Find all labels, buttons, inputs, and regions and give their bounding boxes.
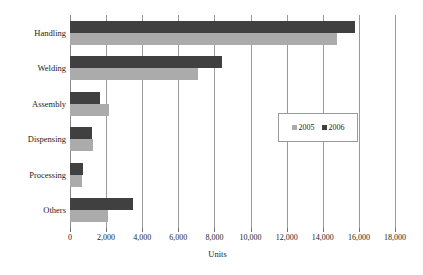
x-tick-label: 18,000 bbox=[384, 233, 406, 243]
bar-group bbox=[70, 163, 395, 187]
category-axis-labels: HandlingWeldingAssemblyDispensingProcess… bbox=[0, 15, 66, 228]
category-label-others: Others bbox=[2, 205, 66, 215]
x-tick-mark bbox=[70, 228, 71, 232]
chart-legend: 20052006 bbox=[278, 113, 358, 142]
bar-2005 bbox=[70, 139, 93, 151]
x-axis-title-text: Units bbox=[208, 249, 226, 259]
gridline bbox=[251, 15, 252, 228]
legend-item-2005: 2005 bbox=[292, 123, 315, 132]
bar-2005 bbox=[70, 210, 108, 222]
x-tick-mark bbox=[251, 228, 252, 232]
x-tick-mark bbox=[214, 228, 215, 232]
x-axis-title: Units bbox=[0, 249, 423, 259]
x-tick-mark bbox=[395, 228, 396, 232]
category-label-dispensing: Dispensing bbox=[2, 134, 66, 144]
x-tick-mark bbox=[178, 228, 179, 232]
bar-2005 bbox=[70, 104, 109, 116]
x-tick-label: 16,000 bbox=[348, 233, 370, 243]
category-label-welding: Welding bbox=[2, 63, 66, 73]
bar-2005 bbox=[70, 68, 198, 80]
gridline bbox=[214, 15, 215, 228]
gridline bbox=[395, 15, 396, 228]
bar-chart: HandlingWeldingAssemblyDispensingProcess… bbox=[0, 0, 423, 275]
bar-2005 bbox=[70, 175, 82, 187]
bar-group bbox=[70, 56, 395, 80]
category-label-handling: Handling bbox=[2, 28, 66, 38]
x-tick-label: 10,000 bbox=[240, 233, 262, 243]
gridline bbox=[359, 15, 360, 228]
x-tick-mark bbox=[323, 228, 324, 232]
category-label-assembly: Assembly bbox=[2, 99, 66, 109]
gridline bbox=[142, 15, 143, 228]
bar-2006 bbox=[70, 127, 92, 139]
bar-2006 bbox=[70, 163, 83, 175]
x-tick-label: 6,000 bbox=[169, 233, 187, 243]
value-axis-line bbox=[70, 15, 71, 228]
bar-2006 bbox=[70, 56, 222, 68]
x-tick-label: 8,000 bbox=[205, 233, 223, 243]
legend-label: 2006 bbox=[329, 123, 345, 132]
bar-2005 bbox=[70, 33, 337, 45]
legend-swatch-icon bbox=[292, 125, 297, 130]
x-tick-mark bbox=[142, 228, 143, 232]
bar-2006 bbox=[70, 21, 355, 33]
x-tick-mark bbox=[359, 228, 360, 232]
legend-label: 2005 bbox=[299, 123, 315, 132]
bar-group bbox=[70, 21, 395, 45]
bar-2006 bbox=[70, 92, 100, 104]
x-tick-label: 2,000 bbox=[97, 233, 115, 243]
x-tick-label: 4,000 bbox=[133, 233, 151, 243]
x-tick-label: 12,000 bbox=[276, 233, 298, 243]
category-label-processing: Processing bbox=[2, 170, 66, 180]
x-tick-mark bbox=[287, 228, 288, 232]
x-tick-mark bbox=[106, 228, 107, 232]
bar-2006 bbox=[70, 198, 133, 210]
legend-item-2006: 2006 bbox=[322, 123, 345, 132]
gridline bbox=[178, 15, 179, 228]
legend-swatch-icon bbox=[322, 125, 327, 130]
bar-group bbox=[70, 198, 395, 222]
gridline bbox=[106, 15, 107, 228]
x-tick-label: 14,000 bbox=[312, 233, 334, 243]
x-tick-label: 0 bbox=[68, 233, 72, 243]
